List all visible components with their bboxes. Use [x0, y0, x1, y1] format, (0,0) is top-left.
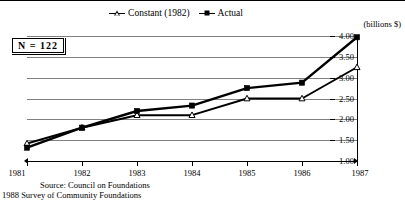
sample-size-annotation: N = 122	[12, 38, 64, 53]
series-line-actual	[27, 37, 357, 147]
marker-actual-1982	[79, 125, 84, 130]
figure-container: Constant (1982) Actual (billions $) 4.00…	[0, 0, 405, 203]
marker-constant-1987	[354, 64, 360, 70]
marker-actual-1984	[189, 103, 194, 108]
source-note: Source: Council on Foundations 1988 Surv…	[2, 180, 150, 200]
marker-actual-1987	[354, 35, 359, 40]
source-line-1: Source: Council on Foundations	[2, 180, 150, 190]
marker-actual-1985	[244, 85, 249, 90]
marker-actual-1981	[24, 145, 29, 150]
marker-actual-1986	[299, 80, 304, 85]
source-line-2: 1988 Survey of Community Foundations	[2, 190, 150, 200]
data-series-layer	[0, 0, 405, 203]
marker-actual-1983	[134, 108, 139, 113]
